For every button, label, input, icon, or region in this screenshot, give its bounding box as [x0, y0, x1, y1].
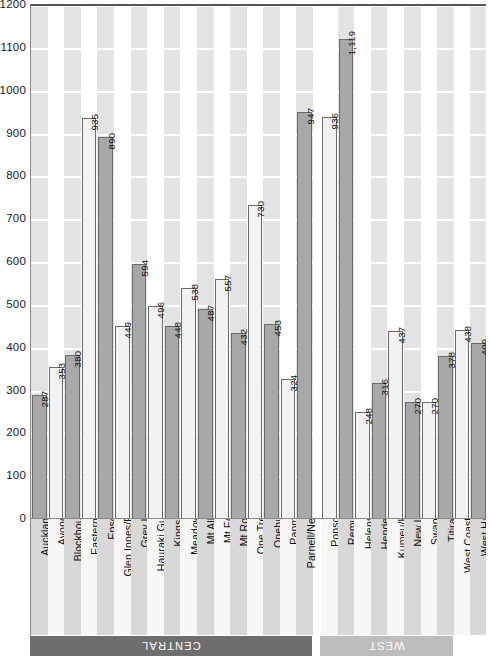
bar: 1,119	[339, 39, 354, 518]
bar: 449	[115, 326, 130, 518]
bar: 438	[455, 330, 470, 518]
y-axis-tick: 100	[6, 469, 26, 481]
category-label-cell: Grey Lynn	[131, 519, 148, 635]
category-label-cell: West Coast Beaches	[454, 519, 471, 635]
bar: 594	[132, 264, 147, 518]
y-axis-tick: 200	[6, 426, 26, 438]
group-band-central: CENTRAL	[30, 636, 312, 656]
gridline	[31, 5, 486, 7]
y-axis-tick: 600	[6, 255, 26, 267]
bar-value-label: 496	[155, 301, 166, 318]
category-label-cell: Avondale	[48, 519, 65, 635]
category-label-cell: Remuera	[338, 519, 355, 635]
bar: 353	[49, 367, 64, 518]
y-axis-tick: 0	[19, 512, 26, 524]
y-axis-tick: 300	[6, 384, 26, 396]
category-label-cell: Auckland City	[31, 519, 48, 635]
category-label-cell: Henderson	[371, 519, 388, 635]
category-label-cell: Parnell/Newmarket	[296, 519, 313, 635]
y-axis-tick: 800	[6, 169, 26, 181]
bar-chart-figure: 1200110010009008007006005004003002001000…	[0, 0, 491, 665]
bar: 409	[471, 343, 486, 518]
category-label-cell: Glen Innes/Pt England	[114, 519, 131, 635]
bar-value-label: 1,119	[346, 30, 357, 55]
bar: 453	[264, 324, 279, 518]
category-label-cell: Kingsland	[164, 519, 181, 635]
bar-value-label: 437	[396, 326, 407, 343]
bar: 538	[181, 288, 196, 518]
bar: 730	[248, 205, 263, 518]
bar-value-label: 594	[139, 259, 150, 276]
y-axis-tick: 900	[6, 127, 26, 139]
category-label: Parnell/Newmarket	[305, 518, 317, 568]
category-label-cell: Epsom	[97, 519, 114, 635]
bar-value-label: 438	[462, 326, 473, 343]
category-label-cell: Onehunga	[263, 519, 280, 635]
y-axis-tick: 1100	[0, 41, 26, 53]
bar: 448	[165, 326, 180, 518]
bar-value-label: 935	[89, 113, 100, 130]
category-label-cell: Blockhouse Bay	[64, 519, 81, 635]
category-label-cell: Ponsonby	[321, 519, 338, 635]
gridline	[31, 134, 486, 136]
bar-value-label: 730	[255, 201, 266, 218]
category-label-cell: New Lynn	[404, 519, 421, 635]
category-label: West Harbour	[479, 518, 486, 556]
bar: 947	[297, 112, 312, 518]
y-axis-tick: 1200	[0, 0, 26, 10]
y-axis-tick: 400	[6, 341, 26, 353]
y-axis-tick: 700	[6, 212, 26, 224]
category-label-cell: One Tree Hill	[247, 519, 264, 635]
group-band-label: CENTRAL	[141, 640, 201, 652]
category-label-cell: Eastern Bays	[81, 519, 98, 635]
category-label-strip: Auckland CityAvondaleBlockhouse BayEaste…	[30, 518, 486, 635]
plot-area: 2873533809358904495944964485384875574327…	[30, 4, 486, 518]
category-label-cell: Swanson	[421, 519, 438, 635]
category-label-cell: Panmure	[280, 519, 297, 635]
bar: 378	[438, 356, 453, 518]
group-band-label: WEST	[368, 640, 405, 652]
bar: 935	[82, 118, 97, 518]
bar: 316	[372, 383, 387, 518]
bar: 270	[405, 402, 420, 518]
category-label-cell: West Harbour	[470, 519, 486, 635]
bar-value-label: 453	[272, 320, 283, 337]
y-axis-tick: 500	[6, 298, 26, 310]
bar: 487	[198, 309, 213, 518]
bar: 432	[231, 333, 246, 518]
group-band-strip: CENTRALWEST	[30, 636, 486, 656]
bar-value-label: 409	[479, 338, 486, 355]
y-axis-tick: 1000	[0, 84, 26, 96]
bar: 890	[98, 137, 113, 518]
bar-value-label: 557	[222, 275, 233, 292]
category-label-cell: Titirangi	[437, 519, 454, 635]
category-label-cell: Hauraki Gulf Islands	[147, 519, 164, 635]
bar-value-label: 890	[106, 132, 117, 149]
y-axis: 1200110010009008007006005004003002001000	[0, 0, 30, 520]
category-label-cell: Kumeu/Huapai	[387, 519, 404, 635]
bar: 496	[148, 306, 163, 518]
group-separator-gap	[313, 6, 321, 518]
category-label-cell: Mt Roskill	[230, 519, 247, 635]
bar-value-label: 538	[189, 283, 200, 300]
category-label-cell: Mt Eden	[214, 519, 231, 635]
bar: 437	[388, 331, 403, 518]
bar: 324	[281, 379, 296, 518]
bar: 270	[422, 402, 437, 518]
group-band-west: WEST	[320, 636, 453, 656]
bar: 380	[65, 355, 80, 518]
bar: 287	[32, 395, 47, 518]
bar: 557	[215, 279, 230, 518]
bar-value-label: 947	[305, 108, 316, 125]
category-label-cell: Meadowbank	[180, 519, 197, 635]
gridline	[31, 48, 486, 50]
bar: 936	[322, 117, 337, 518]
bar: 248	[355, 412, 370, 518]
category-label-cell: Mt Albert	[197, 519, 214, 635]
category-label-cell: Helensville	[354, 519, 371, 635]
gridline	[31, 91, 486, 93]
